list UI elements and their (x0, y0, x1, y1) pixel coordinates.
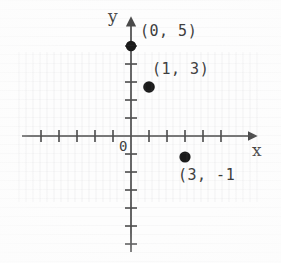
x-axis-label: x (252, 140, 262, 160)
data-point (143, 81, 155, 93)
point-label-1-3: (1, 3) (152, 60, 209, 78)
origin-label: 0 (119, 138, 128, 154)
point-label-3-neg1: (3, -1 (178, 166, 235, 184)
data-point (126, 41, 136, 51)
scanned-figure: y x 0 (0, 5) (1, 3) (3, -1 (0, 0, 281, 263)
y-axis-label: y (108, 6, 118, 26)
data-point (179, 151, 190, 162)
point-label-0-5: (0, 5) (140, 22, 197, 40)
